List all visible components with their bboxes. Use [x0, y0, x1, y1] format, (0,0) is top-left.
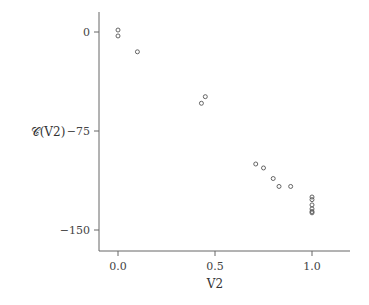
y-tick-label: −150: [60, 224, 90, 237]
x-tick-label: 1.0: [303, 260, 321, 273]
x-ticks: 0.00.51.0: [109, 251, 321, 273]
data-point: [271, 177, 275, 181]
data-point: [254, 162, 258, 166]
data-point: [277, 184, 281, 188]
y-tick-label: 0: [83, 26, 90, 39]
x-axis-title: V2: [206, 277, 223, 291]
data-point: [203, 95, 207, 99]
data-point: [135, 50, 139, 54]
scatter-plot: 0−75−150 0.00.51.0 V2 𝒞(V2): [0, 0, 369, 305]
data-points: [116, 28, 314, 215]
data-point: [310, 198, 314, 202]
y-ticks: 0−75−150: [60, 26, 99, 237]
x-tick-label: 0.5: [206, 260, 224, 273]
data-point: [116, 28, 120, 32]
x-tick-label: 0.0: [109, 260, 127, 273]
data-point: [310, 203, 314, 207]
data-point: [289, 184, 293, 188]
data-point: [116, 34, 120, 38]
y-tick-label: −75: [67, 125, 90, 138]
data-point: [262, 166, 266, 170]
y-axis-title: 𝒞(V2): [31, 125, 66, 139]
data-point: [199, 101, 203, 105]
